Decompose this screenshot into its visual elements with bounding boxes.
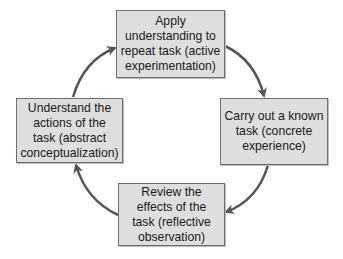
node-label: Carry out a known task (concrete experie… [225,109,324,154]
arrow-bottom-to-left-icon [76,165,118,215]
arrow-top-to-right-icon [225,46,264,96]
learning-cycle-diagram: Apply understanding to repeat task (acti… [0,0,343,259]
node-active-experimentation: Apply understanding to repeat task (acti… [116,10,225,78]
arrow-left-to-top-icon [73,48,115,97]
node-reflective-observation: Review the effects of the task (reflecti… [118,183,225,246]
node-label: Review the effects of the task (reflecti… [132,185,211,245]
arrow-right-to-bottom-icon [226,165,268,212]
node-label: Apply understanding to repeat task (acti… [121,14,221,74]
node-abstract-conceptualization: Understand the actions of the task (abst… [16,98,123,163]
node-label: Understand the actions of the task (abst… [20,101,118,161]
node-concrete-experience: Carry out a known task (concrete experie… [220,98,328,165]
